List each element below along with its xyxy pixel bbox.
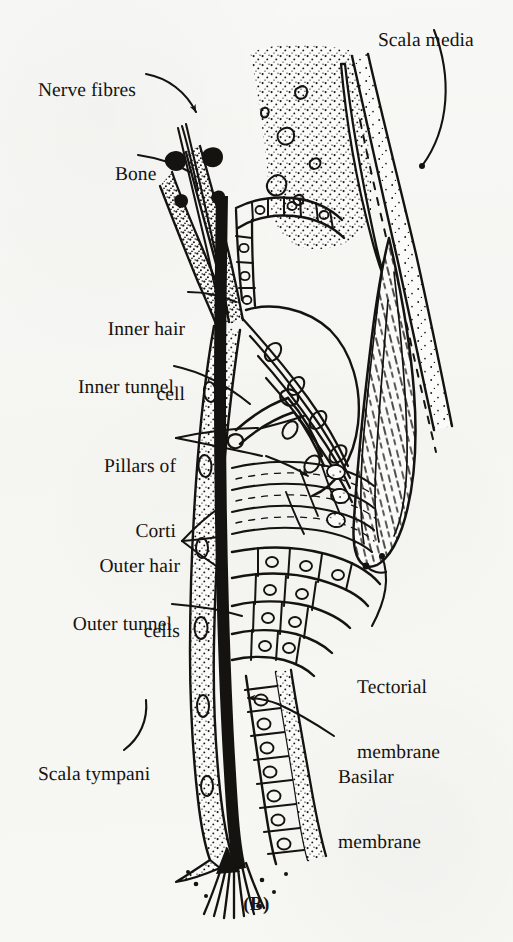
panel-caption: (B) (0, 893, 513, 915)
label-bone: Bone (95, 142, 156, 207)
figure-organ-of-corti: Nerve fibres Bone Scala media Inner hair… (0, 0, 513, 942)
label-scala-media: Scala media (358, 8, 474, 73)
label-basilar-membrane: Basilar membrane (338, 723, 421, 898)
label-scala-tympani: Scala tympani (18, 742, 150, 807)
label-inner-tunnel: Inner tunnel (0, 355, 174, 420)
label-outer-tunnel: Outer tunnel (0, 592, 172, 657)
label-nerve-fibres: Nerve fibres (18, 58, 136, 123)
